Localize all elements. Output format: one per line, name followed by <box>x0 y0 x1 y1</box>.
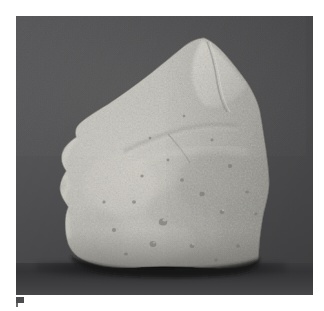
rock-base-shading <box>16 230 313 295</box>
plate-corner-mark <box>16 297 24 303</box>
triangular-rock-specimen <box>16 16 313 295</box>
page-root <box>0 0 324 311</box>
rock-specimen-photograph <box>16 16 313 295</box>
specimen-container <box>16 16 313 295</box>
rock-body <box>16 16 313 295</box>
